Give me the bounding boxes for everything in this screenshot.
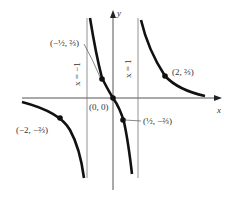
point-two (162, 73, 168, 79)
asymptote-left-label: x = −1 (72, 62, 82, 86)
point-half (120, 117, 126, 123)
curve-left-branch (22, 102, 84, 178)
label-neg-two: (−2, −⅔) (16, 125, 48, 135)
y-axis-arrow-icon (110, 10, 116, 18)
curve-middle-branch (90, 18, 132, 174)
point-neg-half (99, 76, 105, 82)
y-axis-label: y (116, 8, 121, 18)
point-neg-two (57, 115, 63, 121)
leader-half (125, 120, 141, 121)
curve-right-branch (141, 20, 205, 96)
label-origin: (0, 0) (89, 102, 109, 112)
x-axis-label: x (216, 105, 221, 115)
point-origin (110, 95, 116, 101)
asymptote-right-label: x = 1 (123, 59, 133, 78)
label-half: (½, −⅔) (143, 116, 172, 126)
label-two: (2, ⅔) (172, 67, 194, 77)
label-neg-half: (−½, ⅔) (50, 38, 79, 48)
x-axis-arrow-icon (214, 95, 222, 101)
graph: x y x = −1 x = 1 (−½, ⅔) (2, ⅔) (0, 0) (… (0, 0, 236, 198)
